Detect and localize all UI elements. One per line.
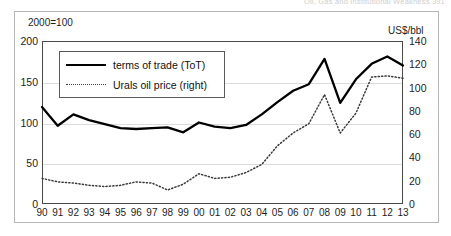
legend-swatch-solid-line-icon — [66, 60, 106, 70]
y-axis-tick-label: 100 — [8, 118, 38, 128]
y2-axis-tick-label: 100 — [409, 83, 441, 93]
y2-axis-tick-label: 20 — [409, 176, 441, 186]
legend-label-urals-oil-price: Urals oil price (right) — [113, 79, 207, 91]
right-axis-ticks: 020406080100120140 — [409, 41, 443, 204]
y2-axis-tick-label: 140 — [409, 36, 441, 46]
x-axis-ticks: 9091929394959697989900010203040506070809… — [42, 207, 403, 221]
figure-page: Oil, Gas and Institutional Weakness 391 … — [0, 0, 451, 236]
y-axis-tick-label: 50 — [8, 158, 38, 168]
y2-axis-tick-label: 60 — [409, 129, 441, 139]
running-head: Oil, Gas and Institutional Weakness 391 — [0, 0, 451, 6]
left-axis-ticks: 050100150200 — [6, 41, 38, 204]
x-axis-tick-label: 13 — [392, 207, 414, 219]
legend-item-terms-of-trade: terms of trade (ToT) — [66, 57, 218, 72]
chart-legend: terms of trade (ToT) Urals oil price (ri… — [59, 51, 225, 98]
y-axis-tick-label: 150 — [8, 77, 38, 87]
legend-item-urals-oil-price: Urals oil price (right) — [66, 77, 218, 92]
y2-axis-tick-label: 40 — [409, 152, 441, 162]
y2-axis-tick-label: 120 — [409, 59, 441, 69]
legend-label-terms-of-trade: terms of trade (ToT) — [113, 59, 205, 71]
y-axis-tick-label: 200 — [8, 36, 38, 46]
legend-swatch-dotted-line-icon — [66, 80, 106, 90]
left-axis-unit-label: 2000=100 — [28, 18, 73, 28]
y2-axis-tick-label: 80 — [409, 106, 441, 116]
